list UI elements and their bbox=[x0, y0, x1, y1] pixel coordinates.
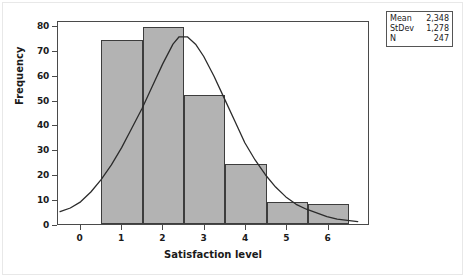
x-tick-mark bbox=[204, 225, 205, 230]
x-tick-label: 4 bbox=[242, 233, 248, 243]
x-tick-label: 0 bbox=[77, 233, 83, 243]
x-tick-label: 3 bbox=[201, 233, 207, 243]
x-axis: Satisfaction level 0123456 bbox=[57, 225, 369, 259]
y-tick-label: 30 bbox=[37, 145, 49, 155]
histogram-bar bbox=[225, 164, 266, 224]
statistics-row: Mean2,348 bbox=[390, 14, 449, 24]
statistics-value: 1,278 bbox=[423, 24, 449, 34]
x-axis-title: Satisfaction level bbox=[164, 249, 262, 260]
histogram-figure: Frequency 01020304050607080 Satisfaction… bbox=[0, 0, 467, 279]
y-tick-label: 0 bbox=[43, 220, 49, 230]
statistics-value: 2,348 bbox=[423, 14, 449, 24]
y-tick-label: 10 bbox=[37, 195, 49, 205]
statistics-label: N bbox=[390, 34, 405, 44]
y-tick-label: 20 bbox=[37, 170, 49, 180]
x-tick-mark bbox=[245, 225, 246, 230]
y-tick-label: 70 bbox=[37, 46, 49, 56]
plot-area bbox=[57, 21, 369, 225]
x-tick-label: 6 bbox=[325, 233, 331, 243]
statistics-legend-box: Mean2,348StDev1,278N247 bbox=[386, 11, 453, 47]
histogram-bar bbox=[101, 40, 142, 224]
y-axis-title: Frequency bbox=[14, 46, 25, 105]
statistics-row: N247 bbox=[390, 34, 449, 44]
x-tick-mark bbox=[121, 225, 122, 230]
statistics-row: StDev1,278 bbox=[390, 24, 449, 34]
y-axis: Frequency 01020304050607080 bbox=[20, 21, 57, 225]
y-tick-label: 50 bbox=[37, 96, 49, 106]
statistics-value: 247 bbox=[423, 34, 449, 44]
statistics-label: Mean bbox=[390, 14, 421, 24]
y-tick-label: 80 bbox=[37, 21, 49, 31]
y-tick-label: 60 bbox=[37, 71, 49, 81]
histogram-bar bbox=[143, 27, 184, 224]
statistics-label: StDev bbox=[390, 24, 423, 34]
x-tick-label: 5 bbox=[283, 233, 289, 243]
histogram-bar bbox=[267, 202, 308, 224]
histogram-bar bbox=[184, 95, 225, 224]
y-tick-label: 40 bbox=[37, 120, 49, 130]
x-tick-mark bbox=[80, 225, 81, 230]
x-tick-label: 1 bbox=[118, 233, 124, 243]
x-tick-label: 2 bbox=[159, 233, 165, 243]
x-tick-mark bbox=[162, 225, 163, 230]
plot-inner bbox=[58, 22, 368, 224]
histogram-bar bbox=[308, 204, 349, 224]
x-tick-mark bbox=[328, 225, 329, 230]
x-tick-mark bbox=[286, 225, 287, 230]
